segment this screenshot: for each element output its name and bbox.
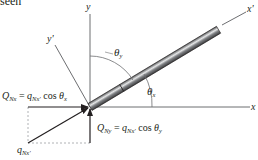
- y-axis-label: y: [86, 2, 90, 12]
- theta-y-arc: [90, 56, 133, 80]
- q-ny-equation: QNy = qNx' cos θy: [97, 123, 162, 135]
- q-nx-prime-arrow: [28, 108, 88, 143]
- theta-y-label: θy: [114, 47, 122, 60]
- q-nx-prime-label: qNx': [17, 145, 31, 157]
- x-axis-label: x: [251, 102, 255, 112]
- x-prime-axis-label: x': [247, 4, 254, 14]
- y-prime-axis-label: y': [47, 34, 54, 44]
- theta-x-label: θx: [147, 86, 155, 99]
- force-decomposition-diagram: [0, 0, 258, 160]
- q-nx-equation: QNx = qNx' cos θx: [2, 91, 67, 103]
- x-prime-axis-line: [222, 12, 246, 25]
